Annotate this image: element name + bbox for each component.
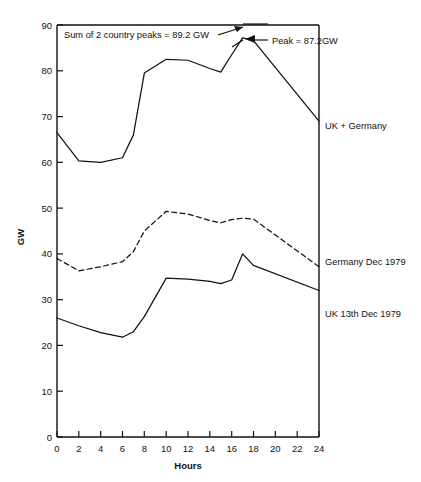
y-tick-label-10: 10 <box>41 386 52 397</box>
y-axis-title: GW <box>15 229 26 245</box>
annotation-sum-of-peaks: Sum of 2 country peaks = 89.2 GW <box>64 24 268 40</box>
y-tick-label-60: 60 <box>41 157 52 168</box>
series-line-uk-plus-germany <box>57 38 319 163</box>
x-tick-label-20: 20 <box>270 443 281 454</box>
x-tick-label-16: 16 <box>226 443 237 454</box>
y-tick-label-70: 70 <box>41 111 52 122</box>
x-axis-ticks: 0 2 4 6 8 10 12 14 16 18 20 22 24 <box>54 431 324 454</box>
x-tick-label-18: 18 <box>248 443 259 454</box>
annotation-peak-text: Peak = 87.2GW <box>272 36 338 46</box>
series-label-uk-plus-germany: UK + Germany <box>325 121 387 131</box>
annotation-peak: Peak = 87.2GW <box>232 35 338 47</box>
line-chart: 90 80 70 60 50 40 30 20 10 0 GW <box>0 0 421 482</box>
y-tick-label-40: 40 <box>41 248 52 259</box>
series-label-germany: Germany Dec 1979 <box>325 257 406 267</box>
x-tick-label-10: 10 <box>161 443 172 454</box>
x-tick-label-22: 22 <box>292 443 303 454</box>
y-axis-ticks: 90 80 70 60 50 40 30 20 10 0 <box>41 20 63 443</box>
x-axis-title: Hours <box>174 460 201 471</box>
y-tick-label-20: 20 <box>41 340 52 351</box>
x-tick-label-2: 2 <box>76 443 81 454</box>
x-tick-label-0: 0 <box>54 443 59 454</box>
series-line-uk <box>57 254 319 337</box>
annotation-peak-arrowhead <box>245 35 255 43</box>
y-tick-label-0: 0 <box>47 432 52 443</box>
x-tick-label-12: 12 <box>183 443 194 454</box>
plot-axes <box>57 25 319 437</box>
y-tick-label-80: 80 <box>41 65 52 76</box>
annotation-sum-text: Sum of 2 country peaks = 89.2 GW <box>64 30 209 40</box>
x-tick-label-6: 6 <box>120 443 125 454</box>
x-tick-label-24: 24 <box>314 443 325 454</box>
y-tick-label-30: 30 <box>41 294 52 305</box>
x-tick-label-4: 4 <box>98 443 103 454</box>
y-tick-label-50: 50 <box>41 203 52 214</box>
series-line-germany <box>57 211 319 271</box>
chart-container: 90 80 70 60 50 40 30 20 10 0 GW <box>0 0 421 482</box>
x-tick-label-8: 8 <box>142 443 147 454</box>
series-label-uk: UK 13th Dec 1979 <box>325 309 401 319</box>
x-tick-label-14: 14 <box>205 443 216 454</box>
y-tick-label-90: 90 <box>41 20 52 31</box>
